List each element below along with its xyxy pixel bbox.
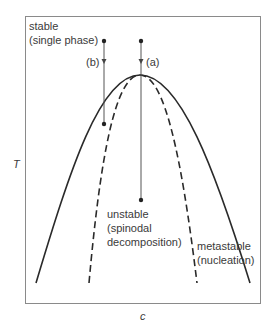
- unstable-label-1: unstable: [107, 208, 149, 221]
- metastable-label-1: metastable: [197, 240, 251, 253]
- y-axis-label: T: [13, 158, 20, 171]
- unstable-label-3: decomposition): [107, 236, 182, 249]
- stable-label-1: stable: [29, 20, 58, 33]
- unstable-label-2: (spinodal: [107, 222, 152, 235]
- path-b-label: (b): [86, 56, 99, 69]
- path-a: [139, 39, 144, 202]
- path-b: [102, 39, 107, 126]
- x-axis-label: c: [140, 310, 146, 323]
- metastable-label-2: (nucleation): [197, 254, 254, 267]
- stable-label-2: (single phase): [29, 34, 98, 47]
- phase-diagram-canvas: [0, 0, 273, 328]
- path-a-label: (a): [146, 56, 159, 69]
